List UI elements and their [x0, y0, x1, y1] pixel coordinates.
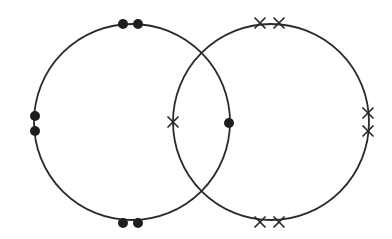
dot-marker-icon	[118, 218, 128, 228]
dot-marker-icon	[118, 19, 128, 29]
cross-marker-icon	[255, 18, 265, 28]
markers-layer	[30, 18, 373, 228]
dot-marker-icon	[224, 118, 234, 128]
diagram-canvas	[0, 0, 392, 239]
circles-layer	[34, 24, 369, 220]
venn-diagram	[0, 0, 392, 239]
dot-marker-icon	[30, 126, 40, 136]
dot-marker-icon	[30, 111, 40, 121]
dot-marker-icon	[133, 218, 143, 228]
cross-marker-icon	[274, 18, 284, 28]
dot-marker-icon	[133, 19, 143, 29]
cross-marker-icon	[274, 217, 284, 227]
